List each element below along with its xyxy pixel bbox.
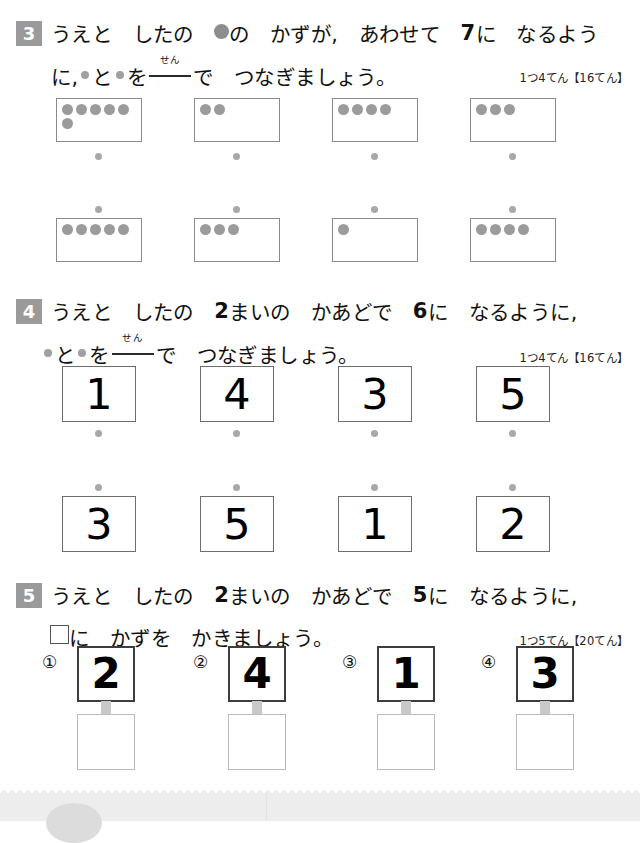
dot bbox=[380, 104, 391, 115]
problem-3-text-f: を bbox=[127, 61, 147, 91]
dot-box-bottom-1[interactable] bbox=[56, 218, 142, 262]
card-connector-4 bbox=[540, 701, 550, 715]
problem-4-text-d: と bbox=[55, 339, 75, 369]
problem-4-text-f: で つなぎましょう。 bbox=[156, 339, 359, 369]
dot-group bbox=[200, 224, 276, 235]
problem-3-score: 1つ4てん【16てん】 bbox=[520, 69, 628, 85]
dot bbox=[62, 118, 73, 129]
problem-3-text-b: の かずが, あわせて bbox=[229, 18, 460, 48]
item-label-3: ③ bbox=[342, 652, 357, 672]
dot bbox=[518, 224, 529, 235]
dot bbox=[104, 224, 115, 235]
problem-number-badge: 3 bbox=[16, 21, 42, 46]
problem-5-text-b: まいの かあどで bbox=[229, 580, 413, 610]
dot-box-bottom-2[interactable] bbox=[194, 218, 280, 262]
dot bbox=[504, 104, 515, 115]
problem-3-target-number: 7 bbox=[461, 21, 476, 45]
connector-dot-bottom-2[interactable] bbox=[233, 206, 240, 213]
answer-box-1[interactable] bbox=[77, 714, 135, 770]
dot-box-bottom-3[interactable] bbox=[332, 218, 418, 262]
problem-5-target-number: 5 bbox=[413, 583, 428, 607]
dot bbox=[62, 104, 73, 115]
answer-box-2[interactable] bbox=[228, 714, 286, 770]
connector-dot-bottom-4[interactable] bbox=[509, 206, 516, 213]
dot-box-bottom-4[interactable] bbox=[470, 218, 556, 262]
problem-number-badge: 5 bbox=[16, 583, 42, 608]
connector-dot-top-2[interactable] bbox=[233, 430, 240, 437]
card-connector-1 bbox=[101, 701, 111, 715]
connector-dot-top-4[interactable] bbox=[509, 430, 516, 437]
problem-3-prompt-line-2: に,とをせんで つなぎましょう。 1つ4てん【16てん】 bbox=[0, 61, 640, 91]
dot bbox=[214, 104, 225, 115]
dot bbox=[366, 104, 377, 115]
dot bbox=[338, 224, 349, 235]
dot bbox=[200, 224, 211, 235]
ruby-text-sen: せん bbox=[122, 330, 143, 344]
dot bbox=[62, 224, 73, 235]
small-dot-icon bbox=[81, 71, 89, 79]
dot bbox=[104, 104, 115, 115]
problem-4-text-e: を bbox=[89, 339, 109, 369]
dot-box-top-4[interactable] bbox=[470, 98, 556, 142]
problem-4-prompt-line-1: 4うえと したの 2まいの かあどで 6に なるように, bbox=[0, 296, 640, 326]
problem-3: 3うえと したの の かずが, あわせて 7に なるよう に,とをせんで つなぎ… bbox=[0, 18, 640, 91]
connector-dot-top-4[interactable] bbox=[509, 153, 516, 160]
number-card-bottom-4[interactable]: 2 bbox=[476, 496, 550, 552]
connector-dot-bottom-4[interactable] bbox=[509, 484, 516, 491]
given-card-2: 4 bbox=[228, 646, 286, 702]
connector-dot-bottom-3[interactable] bbox=[371, 484, 378, 491]
connector-dot-top-1[interactable] bbox=[95, 430, 102, 437]
dot bbox=[90, 104, 101, 115]
number-card-bottom-3[interactable]: 1 bbox=[338, 496, 412, 552]
number-card-top-2[interactable]: 4 bbox=[200, 366, 274, 422]
problem-4-count-number: 2 bbox=[214, 299, 229, 323]
card-connector-2 bbox=[252, 701, 262, 715]
connector-dot-bottom-3[interactable] bbox=[371, 206, 378, 213]
dot bbox=[76, 104, 87, 115]
answer-box-3[interactable] bbox=[377, 714, 435, 770]
problem-3-text-e: と bbox=[92, 61, 112, 91]
dot bbox=[118, 104, 129, 115]
small-dot-icon bbox=[78, 349, 86, 357]
dot-group bbox=[62, 104, 138, 129]
dot bbox=[476, 224, 487, 235]
dot bbox=[352, 104, 363, 115]
problem-5-text-a: うえと したの bbox=[51, 580, 214, 610]
number-card-top-4[interactable]: 5 bbox=[476, 366, 550, 422]
small-dot-icon bbox=[44, 349, 52, 357]
dot-box-top-3[interactable] bbox=[332, 98, 418, 142]
dot bbox=[118, 224, 129, 235]
problem-4: 4うえと したの 2まいの かあどで 6に なるように, とをせんで つなぎまし… bbox=[0, 296, 640, 369]
dot-box-top-1[interactable] bbox=[56, 98, 142, 142]
problem-5-prompt-line-1: 5うえと したの 2まいの かあどで 5に なるように, bbox=[0, 580, 640, 610]
problem-3-text-g: で つなぎましょう。 bbox=[193, 61, 396, 91]
big-dot-icon bbox=[214, 24, 229, 39]
connector-dot-top-2[interactable] bbox=[233, 153, 240, 160]
horizontal-line-icon bbox=[112, 353, 154, 355]
number-card-top-3[interactable]: 3 bbox=[338, 366, 412, 422]
number-card-bottom-2[interactable]: 5 bbox=[200, 496, 274, 552]
connector-dot-top-3[interactable] bbox=[371, 153, 378, 160]
item-label-2: ② bbox=[193, 652, 208, 672]
problem-3-text-d: に, bbox=[51, 61, 78, 91]
connector-dot-top-3[interactable] bbox=[371, 430, 378, 437]
problem-5-count-number: 2 bbox=[214, 583, 229, 607]
card-connector-3 bbox=[401, 701, 411, 715]
footer-seam-divider bbox=[266, 793, 267, 821]
number-card-top-1[interactable]: 1 bbox=[62, 366, 136, 422]
connector-dot-bottom-2[interactable] bbox=[233, 484, 240, 491]
dot-group bbox=[200, 104, 276, 115]
dot-group bbox=[476, 224, 552, 235]
small-dot-icon bbox=[116, 71, 124, 79]
problem-4-text-c: に なるように, bbox=[428, 296, 578, 326]
connector-dot-bottom-1[interactable] bbox=[95, 484, 102, 491]
number-card-bottom-1[interactable]: 3 bbox=[62, 496, 136, 552]
problem-4-prompt-line-2: とをせんで つなぎましょう。 1つ4てん【16てん】 bbox=[0, 339, 640, 369]
connector-line-with-ruby: せん bbox=[149, 67, 191, 86]
connector-dot-top-1[interactable] bbox=[95, 153, 102, 160]
dot bbox=[490, 104, 501, 115]
dot-box-top-2[interactable] bbox=[194, 98, 280, 142]
answer-box-4[interactable] bbox=[516, 714, 574, 770]
connector-dot-bottom-1[interactable] bbox=[95, 206, 102, 213]
